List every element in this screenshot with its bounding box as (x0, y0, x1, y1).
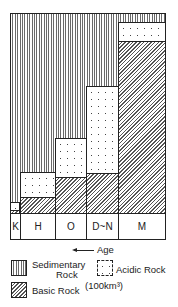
m-acidic-block (118, 22, 166, 42)
dn-basic-block (86, 173, 119, 214)
age-label: Age (97, 245, 114, 255)
label-o: O (56, 214, 87, 239)
label-k: K (11, 214, 21, 239)
arrow-shaft (77, 250, 94, 251)
legend-unit: (100km³) (85, 281, 123, 291)
h-acidic-block (20, 172, 56, 198)
dn-acidic-block (86, 86, 119, 174)
legend-sedimentary-label-2: Rock (56, 270, 78, 280)
h-basic-block (20, 197, 56, 214)
age-arrow: Age (72, 245, 114, 255)
label-dn: D~N (87, 214, 119, 239)
legend-acidic-swatch (97, 260, 113, 276)
age-label-row: K H O D~N M (10, 213, 166, 240)
o-basic-block (55, 177, 87, 214)
legend-basic-swatch (11, 282, 27, 298)
m-basic-block (118, 41, 166, 214)
label-h: H (21, 214, 56, 239)
o-acidic-block (55, 138, 87, 178)
label-m: M (119, 214, 165, 239)
legend-acidic-label: Acidic Rock (116, 265, 166, 275)
legend-sedimentary-swatch (11, 260, 27, 276)
legend-basic-label: Basic Rock (32, 286, 80, 296)
